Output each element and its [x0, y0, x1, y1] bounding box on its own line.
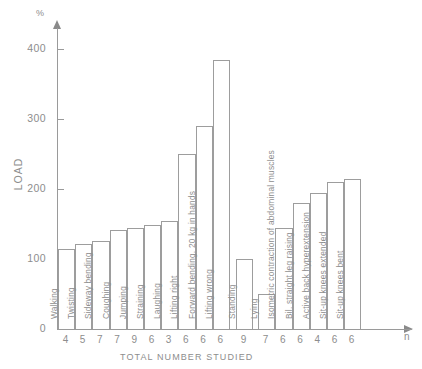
bar-label-text: Bil. straight leg raising — [285, 183, 294, 323]
y-tick-label: 300 — [8, 113, 46, 123]
chart-root: % LOAD TOTAL NUMBER STUDIED n 0100200300… — [0, 0, 422, 369]
x-axis-line — [57, 329, 412, 330]
y-tick-label: 400 — [8, 43, 46, 53]
sample-size-value: 3 — [160, 334, 177, 345]
bar-label-text: Lying — [250, 183, 259, 323]
sample-size-value: 6 — [326, 334, 343, 345]
bar: Sit-up knees bent — [344, 179, 361, 330]
bar-label: Twisting — [67, 183, 76, 323]
sample-size-value: 6 — [292, 334, 309, 345]
bar-label-text: Jumping — [119, 183, 128, 323]
bar-label: Walking — [50, 183, 59, 323]
bar-label: Coughing — [102, 183, 111, 323]
bar-label-text: Standing — [228, 183, 237, 323]
bar-label: Lifting wrong — [205, 183, 214, 323]
plot-area: WalkingTwistingSideway bendingCoughingJu… — [57, 28, 412, 329]
bar-label: Sit-up knees bent — [336, 183, 345, 323]
y-axis-unit-label: % — [36, 8, 44, 18]
bar-label-text: Lifting right — [170, 183, 179, 323]
bar-label: Straining — [136, 183, 145, 323]
sample-size-value: 5 — [74, 334, 91, 345]
bar-label: Sideway bending — [84, 183, 93, 323]
bar-label: Lying — [250, 183, 259, 323]
bar-label-text: Coughing — [102, 183, 111, 323]
bar-label: Isometric contraction of abdominal muscl… — [267, 183, 276, 323]
bar-label: Standing — [228, 183, 237, 323]
bar-label-text: Forward bending. 20 kg in hands — [188, 183, 197, 323]
bar-label-text: Lifting wrong — [205, 183, 214, 323]
bar-label-text: Laughing — [153, 183, 162, 323]
bar-label-text: Sit-up knees bent — [336, 183, 345, 323]
sample-size-value: 6 — [177, 334, 194, 345]
sample-size-value: 7 — [109, 334, 126, 345]
sample-size-value: 7 — [257, 334, 274, 345]
bar-label-text: Sideway bending — [84, 183, 93, 323]
bar-label: Active back hyperextension — [302, 183, 311, 323]
sample-size-row: 45779636669766466 — [57, 334, 412, 350]
sample-size-value: 4 — [309, 334, 326, 345]
bar-label: Forward bending. 20 kg in hands — [188, 183, 197, 323]
y-axis-title: LOAD — [12, 144, 24, 204]
bar-label-text: Isometric contraction of abdominal muscl… — [267, 183, 276, 323]
sample-size-value: 9 — [235, 334, 252, 345]
sample-size-value: 4 — [57, 334, 74, 345]
bar-label-text: Straining — [136, 183, 145, 323]
bar-label: Laughing — [153, 183, 162, 323]
bar-label-text: Sit-up knees extended — [319, 183, 328, 323]
bar-label: Sit-up knees extended — [319, 183, 328, 323]
y-tick-label: 200 — [8, 183, 46, 193]
y-tick-label: 0 — [8, 323, 46, 333]
sample-size-value: 6 — [212, 334, 229, 345]
sample-size-value: 6 — [343, 334, 360, 345]
sample-size-value: 6 — [195, 334, 212, 345]
sample-size-value: 9 — [126, 334, 143, 345]
bar-label: Jumping — [119, 183, 128, 323]
sample-size-value: 7 — [91, 334, 108, 345]
y-tick-label: 100 — [8, 253, 46, 263]
sample-size-value: 6 — [274, 334, 291, 345]
bar-label-text: Twisting — [67, 183, 76, 323]
bar-label: Bil. straight leg raising — [285, 183, 294, 323]
x-axis-title: TOTAL NUMBER STUDIED — [120, 352, 253, 362]
sample-size-value: 6 — [143, 334, 160, 345]
bar-label: Lifting right — [170, 183, 179, 323]
bar-label-text: Active back hyperextension — [302, 183, 311, 323]
bar-label-text: Walking — [50, 183, 59, 323]
